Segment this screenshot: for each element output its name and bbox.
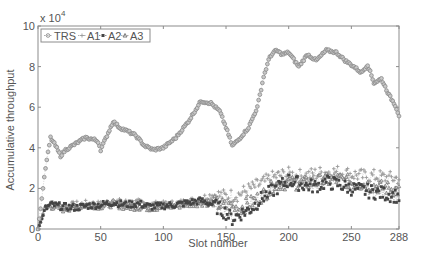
throughput-chart: 050100150200250288 0246810 Slot number A…	[0, 0, 422, 265]
x-tick-label: 250	[342, 231, 360, 243]
y-multiplier: x 10 4	[40, 9, 66, 24]
x-tick-label: 200	[280, 231, 298, 243]
y-tick-label: 4	[29, 142, 35, 154]
y-tick-label: 2	[29, 182, 35, 194]
x-tick-label: 0	[35, 231, 41, 243]
y-multiplier-exponent: 4	[61, 9, 66, 18]
y-tick-label: 8	[29, 61, 35, 73]
x-tick-label: 288	[390, 231, 408, 243]
y-tick-label: 6	[29, 101, 35, 113]
svg-text:A3: A3	[130, 30, 143, 42]
y-tick-label: 0	[29, 223, 35, 235]
svg-text:A2: A2	[108, 30, 121, 42]
square-marker-icon	[102, 34, 105, 37]
x-tick-label: 100	[154, 231, 172, 243]
svg-text:A1: A1	[87, 30, 100, 42]
y-axis-label: Accumulative throughput	[4, 69, 16, 190]
y-multiplier-label: x 10	[40, 12, 61, 24]
x-axis-label: Slot number	[188, 237, 248, 249]
svg-text:TRS: TRS	[54, 30, 76, 42]
y-tick-label: 10	[23, 20, 35, 32]
legend: TRS A1 A2 A3	[41, 29, 150, 42]
x-tick-label: 50	[95, 231, 107, 243]
